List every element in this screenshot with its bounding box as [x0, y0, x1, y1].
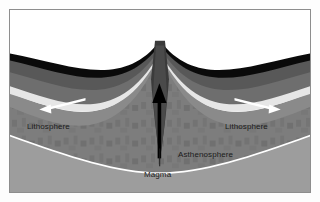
- leader-line-icon: [159, 148, 160, 166]
- label-lithosphere-left: Lithosphere: [27, 123, 70, 131]
- cross-section-illustration: [10, 10, 310, 192]
- figure-border: Lithosphere Lithosphere Asthenosphere Ma…: [9, 9, 311, 193]
- label-lithosphere-right: Lithosphere: [225, 123, 268, 131]
- label-asthenosphere: Asthenosphere: [178, 151, 233, 159]
- figure-root: Lithosphere Lithosphere Asthenosphere Ma…: [0, 0, 320, 202]
- label-magma: Magma: [144, 171, 171, 179]
